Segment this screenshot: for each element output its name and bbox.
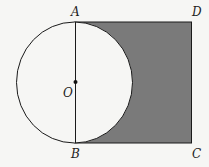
label-a: A — [70, 5, 80, 19]
label-b: B — [70, 147, 80, 161]
geometry-diagram: A D O B C — [0, 0, 209, 167]
center-point-o — [74, 80, 78, 84]
label-d: D — [191, 5, 202, 19]
label-o: O — [63, 86, 73, 100]
label-c: C — [192, 147, 201, 161]
